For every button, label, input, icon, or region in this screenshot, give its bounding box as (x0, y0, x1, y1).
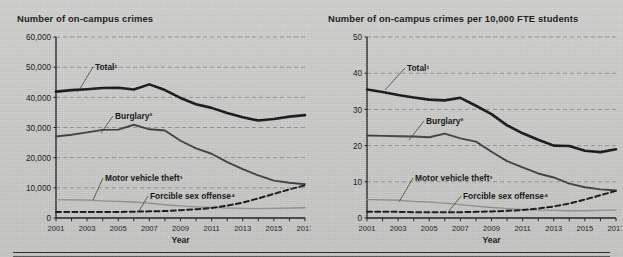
x-tick-label: 2009 (483, 224, 500, 233)
chart-panel-counts: Number of on-campus crimes 010,00020,000… (0, 0, 311, 249)
series-line (367, 89, 616, 152)
series-line (56, 200, 305, 209)
x-tick-label: 2011 (514, 224, 530, 233)
figure-page: Number of on-campus crimes 010,00020,000… (0, 0, 623, 257)
y-tick-label: 0 (357, 214, 362, 223)
x-tick-label: 2007 (452, 224, 469, 233)
bottom-divider-thick (13, 252, 610, 253)
series-annotation-label: Forcible sex offense⁴ (463, 191, 548, 201)
series-annotation-label: Motor vehicle theft³ (415, 173, 492, 183)
x-tick-label: 2001 (359, 224, 376, 233)
y-tick-label: 40,000 (26, 94, 51, 103)
x-tick-label: 2015 (576, 224, 593, 233)
series-line (56, 84, 305, 120)
series-annotation-label: Burglary² (115, 111, 152, 121)
series-annotation-label: Forcible sex offense⁴ (150, 191, 235, 201)
x-tick-label: 2001 (48, 224, 65, 233)
y-tick-label: 20 (353, 142, 363, 151)
y-tick-label: 50 (353, 33, 363, 42)
y-tick-label: 60,000 (26, 33, 51, 42)
x-tick-label: 2013 (545, 224, 562, 233)
x-axis-label: Year (171, 235, 190, 245)
y-tick-label: 30,000 (26, 124, 51, 133)
chart-svg-rate: 0102030405020012003200520072009201120132… (311, 0, 622, 249)
y-tick-label: 0 (46, 214, 51, 223)
x-tick-label: 2013 (234, 224, 251, 233)
y-tick-label: 20,000 (26, 154, 51, 163)
series-annotation-label: Total¹ (95, 62, 117, 72)
x-tick-label: 2009 (172, 224, 189, 233)
x-tick-label: 2005 (421, 224, 438, 233)
x-tick-label: 2007 (141, 224, 158, 233)
x-tick-label: 2015 (265, 224, 282, 233)
x-tick-label: 2003 (390, 224, 407, 233)
x-tick-label: 2005 (110, 224, 127, 233)
x-tick-label: 2003 (79, 224, 96, 233)
y-tick-label: 30 (353, 106, 363, 115)
y-tick-label: 50,000 (26, 63, 51, 72)
series-annotation-label: Motor vehicle theft³ (105, 173, 182, 183)
series-annotation-label: Total¹ (407, 63, 429, 73)
chart-panel-rate: Number of on-campus crimes per 10,000 FT… (311, 0, 622, 249)
series-annotation-label: Burglary² (426, 116, 463, 126)
x-tick-label: 2017 (297, 224, 311, 233)
plot-area-counts: 010,00020,00030,00040,00050,00060,000200… (0, 0, 311, 249)
y-tick-label: 10,000 (26, 184, 51, 193)
y-tick-label: 10 (353, 178, 363, 187)
x-axis-label: Year (482, 235, 501, 245)
x-tick-label: 2011 (203, 224, 219, 233)
y-tick-label: 40 (353, 69, 363, 78)
chart-svg-counts: 010,00020,00030,00040,00050,00060,000200… (0, 0, 311, 249)
plot-area-rate: 0102030405020012003200520072009201120132… (311, 0, 622, 249)
x-tick-label: 2017 (608, 224, 622, 233)
